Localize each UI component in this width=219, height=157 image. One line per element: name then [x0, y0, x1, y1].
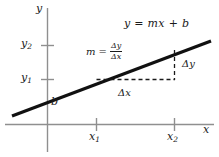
y2-subscript: 2 [27, 42, 32, 51]
slope-fraction: Δy Δx [110, 42, 122, 61]
equals-sign: = [98, 47, 106, 57]
x1-subscript: 1 [95, 135, 100, 144]
y1-subscript: 1 [27, 76, 32, 85]
y-tick-label-y1: y1 [21, 72, 32, 83]
y-intercept-label: b [51, 96, 58, 107]
slope-denominator: Δx [110, 51, 122, 61]
line-equation-label: y = mx + b [124, 18, 189, 29]
y-axis-label: y [36, 3, 42, 14]
slope-numerator: Δy [110, 42, 122, 51]
slope-symbol: m [86, 47, 95, 57]
line-slope-intercept-figure: y x y2 y1 x1 x2 b y = mx + b Δy Δx m = Δ… [0, 0, 219, 157]
slope-formula: m = Δy Δx [86, 42, 122, 61]
y-tick-label-y2: y2 [21, 38, 32, 49]
delta-x-label: Δx [118, 88, 131, 98]
x-tick-label-x1: x1 [89, 131, 100, 142]
x-tick-label-x2: x2 [167, 131, 178, 142]
delta-y-label: Δy [182, 59, 195, 69]
x2-subscript: 2 [173, 135, 178, 144]
x-axis-label: x [203, 124, 209, 135]
